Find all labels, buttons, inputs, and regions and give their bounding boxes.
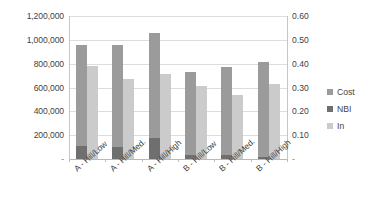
- legend-label: In: [337, 121, 344, 131]
- legend-item[interactable]: Cost: [327, 83, 375, 100]
- bar-cost[interactable]: [221, 67, 232, 159]
- right-axis-tick-label: 0.30: [292, 83, 309, 93]
- legend-swatch-icon: [327, 106, 333, 112]
- legend-swatch-icon: [327, 89, 333, 95]
- bar-group: [214, 16, 250, 159]
- legend-label: NBI: [337, 104, 351, 114]
- left-axis-tick-label: 200,000: [0, 130, 64, 140]
- bar-group: [105, 16, 141, 159]
- right-axis-tick-label: 0.50: [292, 35, 309, 45]
- left-axis-tick-label: 800,000: [0, 59, 64, 69]
- bar-cost[interactable]: [112, 45, 123, 159]
- chart-legend: CostNBIIn: [327, 83, 375, 134]
- bar-group: [251, 16, 287, 159]
- left-axis-tick-label: 1,000,000: [0, 35, 64, 45]
- right-axis-tick-label: 0.10: [292, 130, 309, 140]
- left-axis-tick-label: 600,000: [0, 83, 64, 93]
- right-axis-tick-label: 0.60: [292, 11, 309, 21]
- right-axis-tick-label: 0.40: [292, 59, 309, 69]
- left-axis-tick-label: 400,000: [0, 106, 64, 116]
- right-axis-tick-label: 0.20: [292, 106, 309, 116]
- legend-label: Cost: [337, 87, 355, 97]
- bar-group: [142, 16, 178, 159]
- left-axis-line: [69, 16, 70, 159]
- bar-cost[interactable]: [76, 45, 87, 159]
- legend-item[interactable]: In: [327, 117, 375, 134]
- bar-cost[interactable]: [258, 62, 269, 159]
- legend-item[interactable]: NBI: [327, 100, 375, 117]
- legend-swatch-icon: [327, 123, 333, 129]
- bar-cost[interactable]: [185, 72, 196, 159]
- bar-group: [69, 16, 105, 159]
- chart-container: -200,000400,000600,000800,0001,000,0001,…: [0, 0, 375, 213]
- left-axis-tick-label: 1,200,000: [0, 11, 64, 21]
- category-labels: A - Hill/LowA - Hill/Med.A - Hill/HighB …: [0, 160, 375, 213]
- bar-group: [178, 16, 214, 159]
